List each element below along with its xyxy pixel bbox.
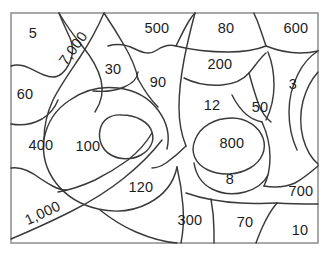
region-label-200: 200 xyxy=(208,56,233,72)
region-label-300: 300 xyxy=(178,212,203,228)
region-label-10: 10 xyxy=(292,222,309,238)
region-label-500: 500 xyxy=(145,20,170,36)
region-label-12: 12 xyxy=(204,97,221,113)
region-label-80: 80 xyxy=(218,20,235,36)
region-label-90: 90 xyxy=(150,74,167,90)
region-label-3: 3 xyxy=(289,76,297,92)
region-label-5: 5 xyxy=(29,25,37,41)
puzzle-diagram: 57,0005008060030200906031250400100800120… xyxy=(0,0,332,259)
region-label-600: 600 xyxy=(284,20,309,36)
region-label-700: 700 xyxy=(289,183,314,199)
region-label-400: 400 xyxy=(29,137,54,153)
region-label-70: 70 xyxy=(237,214,254,230)
region-label-30: 30 xyxy=(105,61,122,77)
region-label-50: 50 xyxy=(252,99,269,115)
region-label-100: 100 xyxy=(76,138,101,154)
region-label-8: 8 xyxy=(226,171,234,187)
region-label-800: 800 xyxy=(220,135,245,151)
puzzle-canvas: 57,0005008060030200906031250400100800120… xyxy=(0,0,332,259)
region-label-60: 60 xyxy=(17,86,34,102)
region-label-120: 120 xyxy=(129,179,154,195)
